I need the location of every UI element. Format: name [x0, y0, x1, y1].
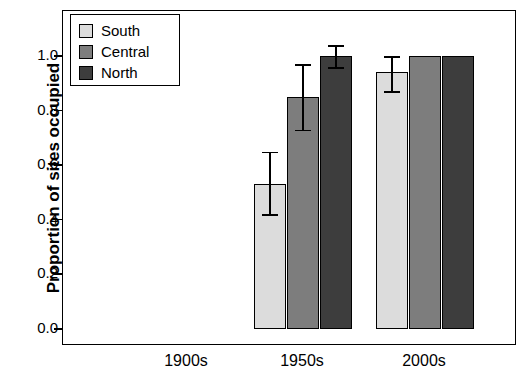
error-bar-cap [262, 152, 278, 154]
y-tick-label: 0.8 [18, 102, 58, 117]
y-tick-label: 0.0 [18, 320, 58, 335]
y-tick-mark [54, 110, 62, 112]
error-bar-cap [384, 91, 400, 93]
legend-swatch-icon [79, 24, 93, 38]
error-bar-cap [384, 56, 400, 58]
x-tick-label: 2000s [364, 352, 484, 370]
y-axis-title: Proportion of sites occupied [44, 28, 64, 328]
legend-label: South [101, 23, 140, 38]
bar [442, 56, 474, 329]
error-bar-line [269, 152, 271, 215]
error-bar-line [391, 56, 393, 91]
error-bar-cap [295, 130, 311, 132]
legend-item: South [79, 23, 140, 38]
y-tick-mark [54, 55, 62, 57]
error-bar-cap [262, 214, 278, 216]
y-tick-label: 0.2 [18, 265, 58, 280]
y-tick-label: 0.6 [18, 156, 58, 171]
bar [287, 97, 319, 329]
legend-swatch-icon [79, 66, 93, 80]
bar [409, 56, 441, 329]
y-tick-mark [54, 164, 62, 166]
y-tick-label: 0.4 [18, 211, 58, 226]
y-tick-mark [54, 328, 62, 330]
y-tick-mark [54, 219, 62, 221]
error-bar-line [302, 64, 304, 130]
error-bar-cap [295, 64, 311, 66]
x-tick-label: 1950s [242, 352, 362, 370]
y-tick-label: 1.0 [18, 47, 58, 62]
legend-label: Central [101, 44, 149, 59]
error-bar-line [335, 45, 337, 67]
error-bar-cap [328, 45, 344, 47]
legend-label: North [101, 65, 138, 80]
bar-chart: Proportion of sites occupied 0.00.20.40.… [0, 0, 528, 385]
legend-swatch-icon [79, 45, 93, 59]
legend-item: North [79, 65, 138, 80]
bar [376, 72, 408, 329]
error-bar-cap [328, 67, 344, 69]
legend: SouthCentralNorth [70, 14, 180, 86]
y-tick-mark [54, 273, 62, 275]
x-tick-label: 1900s [126, 352, 246, 370]
legend-item: Central [79, 44, 149, 59]
bar [320, 56, 352, 329]
